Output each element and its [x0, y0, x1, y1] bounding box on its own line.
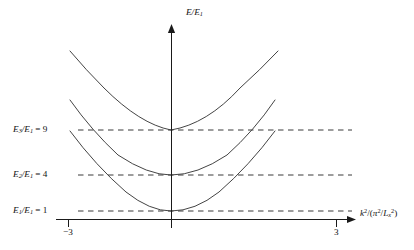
plot-svg — [0, 0, 414, 250]
x-tick-label-3: 3 — [334, 228, 339, 237]
subband-curve-n2 — [70, 100, 275, 175]
subband-curve-n1 — [70, 131, 275, 211]
level-label-E1: E1/E1 = 1 — [13, 206, 47, 216]
y-axis-label: E/E1 — [186, 8, 203, 18]
level-label-E2: E2/E1 = 4 — [13, 170, 47, 180]
x-axis-arrowhead — [347, 216, 356, 223]
figure-canvas: E/E1 k2/(π2/Lx2) −3 3 E3/E1 = 9 E2/E1 = … — [0, 0, 414, 250]
x-axis-label: k2/(π2/Lx2) — [360, 208, 397, 218]
x-tick-label-minus3: −3 — [63, 228, 73, 237]
y-axis-arrowhead — [168, 24, 175, 33]
level-label-E3: E3/E1 = 9 — [13, 125, 47, 135]
subband-curve-n3 — [70, 51, 278, 130]
